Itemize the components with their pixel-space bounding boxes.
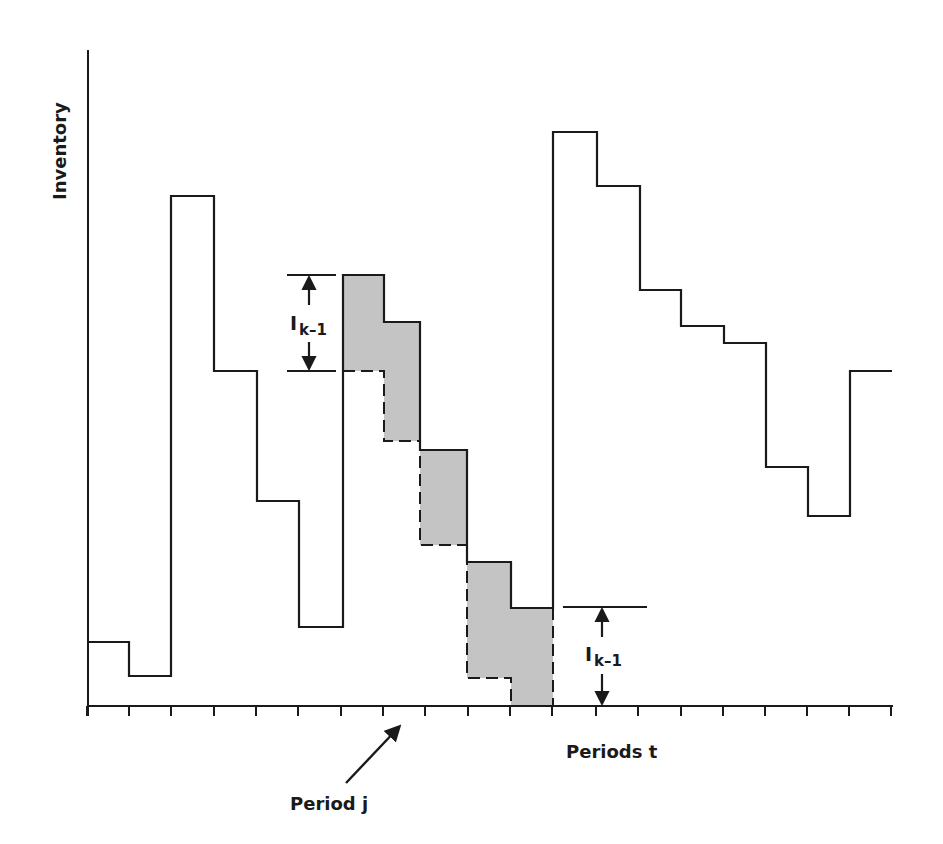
shaded-block <box>467 562 511 678</box>
ik-bracket-left: Ik–1 <box>287 275 336 371</box>
shaded-block <box>420 450 467 545</box>
x-axis-label: Periods t <box>566 741 658 762</box>
ik-label-left: Ik–1 <box>290 312 327 339</box>
period-j-label: Period j <box>290 793 368 814</box>
period-j-pointer: Period j <box>290 727 399 814</box>
arrow-icon <box>346 727 399 783</box>
shaded-inventory-band <box>343 275 553 706</box>
shaded-block <box>343 275 384 371</box>
ik-bracket-right: Ik–1 <box>563 607 647 703</box>
ik-label-right: Ik–1 <box>585 643 622 670</box>
inventory-step-diagram: Ik–1 Ik–1 Period j Periods t Inventory <box>0 0 943 844</box>
y-axis-label: Inventory <box>49 102 70 200</box>
shaded-block <box>511 608 553 706</box>
shaded-block <box>384 322 420 441</box>
x-axis-ticks <box>87 706 891 716</box>
